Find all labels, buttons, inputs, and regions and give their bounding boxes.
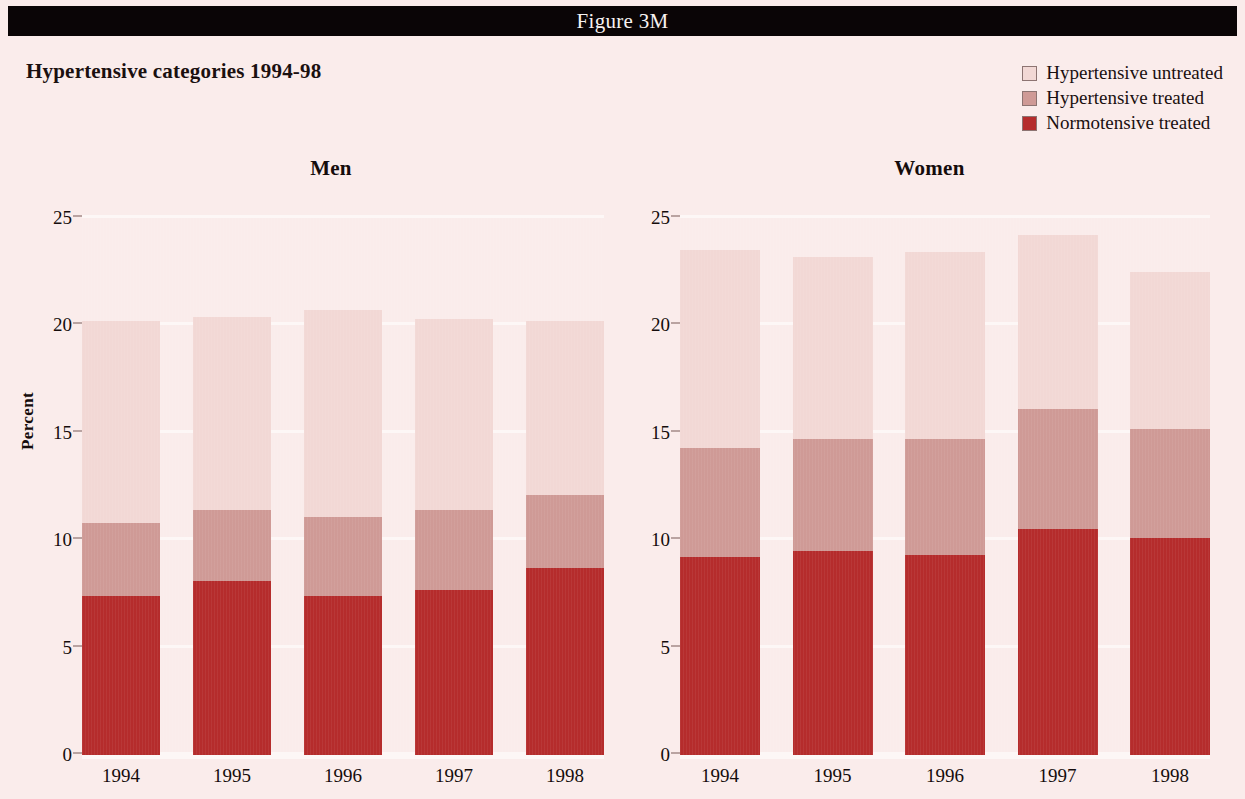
legend-item-label: Normotensive treated [1046,112,1210,134]
bar-segment [526,321,604,495]
y-tick-label: 25 [651,207,670,229]
x-tick-label: 1994 [82,765,160,787]
x-tick-label: 1994 [680,765,760,787]
bar-segment [193,581,271,755]
y-tick-mark [73,215,82,217]
bar-segment [415,319,493,510]
bar-segment [82,596,160,755]
bar-stack [304,218,382,755]
bar-stack [1130,218,1210,755]
bar-segment [680,557,760,755]
bar-segment [304,596,382,755]
bar-segment [1130,272,1210,429]
legend-item: Hypertensive untreated [1022,62,1223,84]
legend-swatch-icon [1022,66,1037,81]
y-tick-mark [73,645,82,647]
y-tick-label: 20 [53,314,72,336]
bar-segment [526,495,604,568]
y-tick-label: 15 [651,422,670,444]
plot-area-women: 051015202519941995199619971998 [680,218,1210,755]
bar-segment [680,448,760,558]
bar-segment [1018,529,1098,755]
y-tick-label: 25 [53,207,72,229]
chart-title: Hypertensive categories 1994-98 [26,59,321,84]
plot-area-men: 051015202519941995199619971998 [82,218,604,755]
x-tick-label: 1997 [1018,765,1098,787]
y-tick-label: 5 [63,637,73,659]
y-tick-label: 10 [53,529,72,551]
bar-segment [793,439,873,551]
y-axis-label: Percent [18,392,38,450]
bar-group [82,218,604,755]
panel-men: Men Percent 0510152025199419951996199719… [20,150,620,790]
bar-segment [526,568,604,755]
y-tick-label: 0 [63,744,73,766]
y-tick-label: 5 [661,637,671,659]
x-tick-label: 1996 [905,765,985,787]
bar-stack [1018,218,1098,755]
y-tick-mark [73,537,82,539]
x-tick-label: 1995 [193,765,271,787]
figure-page: Figure 3M Hypertensive categories 1994-9… [0,0,1245,799]
y-tick-label: 0 [661,744,671,766]
bar-segment [415,590,493,755]
bar-stack [82,218,160,755]
bar-segment [415,510,493,589]
panel-men-heading: Men [20,156,620,181]
panel-women-heading: Women [625,156,1230,181]
y-tick-mark [671,430,680,432]
y-tick-mark [73,430,82,432]
y-tick-mark [671,645,680,647]
bar-segment [905,439,985,555]
y-tick-mark [73,322,82,324]
y-tick-label: 15 [53,422,72,444]
bar-segment [304,310,382,516]
panel-women: Women 051015202519941995199619971998 [625,150,1230,790]
bar-segment [1130,429,1210,539]
bar-segment [793,257,873,440]
bar-stack [905,218,985,755]
bar-stack [680,218,760,755]
y-tick-mark [671,752,680,754]
legend-item: Normotensive treated [1022,112,1223,134]
x-tick-label: 1997 [415,765,493,787]
y-tick-label: 20 [651,314,670,336]
y-tick-mark [671,322,680,324]
legend-item-label: Hypertensive treated [1046,87,1204,109]
y-tick-mark [671,215,680,217]
bar-segment [1018,409,1098,529]
x-tick-label: 1996 [304,765,382,787]
bar-segment [793,551,873,755]
bar-segment [905,555,985,755]
bar-segment [82,523,160,596]
bar-segment [304,517,382,596]
bar-stack [526,218,604,755]
x-axis-men [82,755,604,759]
x-tick-label: 1998 [1130,765,1210,787]
legend-item-label: Hypertensive untreated [1046,62,1223,84]
bar-segment [193,317,271,510]
y-tick-mark [671,537,680,539]
y-tick-label: 10 [651,529,670,551]
bar-group [680,218,1210,755]
chart-legend: Hypertensive untreatedHypertensive treat… [1022,62,1223,134]
figure-banner: Figure 3M [8,6,1237,36]
bar-segment [1130,538,1210,755]
bar-stack [193,218,271,755]
bar-segment [193,510,271,581]
x-axis-labels: 19941995199619971998 [82,765,604,787]
legend-swatch-icon [1022,91,1037,106]
figure-label: Figure 3M [8,6,1237,36]
legend-swatch-icon [1022,116,1037,131]
bar-stack [793,218,873,755]
x-tick-label: 1995 [793,765,873,787]
x-tick-label: 1998 [526,765,604,787]
bar-segment [680,250,760,448]
x-axis-women [680,755,1210,759]
legend-item: Hypertensive treated [1022,87,1223,109]
bar-segment [905,252,985,439]
bar-segment [82,321,160,523]
bar-stack [415,218,493,755]
x-axis-labels: 19941995199619971998 [680,765,1210,787]
bar-segment [1018,235,1098,409]
